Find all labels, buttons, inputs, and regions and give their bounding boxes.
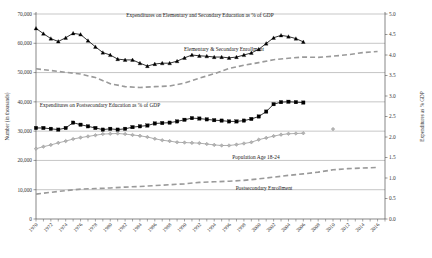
data-point-square (279, 100, 282, 103)
data-point-square (116, 128, 119, 131)
data-point-square (287, 100, 290, 103)
data-point-diamond (242, 142, 246, 146)
data-point-square (183, 118, 186, 121)
data-point-square (257, 115, 260, 118)
data-point-square (250, 117, 253, 120)
series-annotation-4: Postsecondary Enrollment (236, 185, 293, 191)
y-tick-label-right: 2.0 (389, 134, 396, 140)
x-tick-label: 2004 (280, 221, 292, 233)
y-tick-label-right: 4.5 (389, 31, 396, 37)
data-point-diamond (34, 147, 38, 151)
data-point-square (109, 127, 112, 130)
data-point-square (213, 118, 216, 121)
data-point-square (264, 110, 267, 113)
y-tick-label-right: 1.5 (389, 154, 396, 160)
data-point-square (34, 126, 37, 129)
y-tick-label-left: 40,000 (17, 99, 32, 105)
x-tick-label: 1988 (161, 221, 173, 233)
data-point-triangle (138, 61, 142, 65)
data-point-square (79, 123, 82, 126)
x-tick-label: 2006 (295, 221, 307, 233)
data-point-square (205, 118, 208, 121)
x-tick-label: 1972 (42, 221, 54, 233)
x-tick-label: 1974 (57, 221, 69, 233)
data-point-diamond (279, 133, 283, 137)
data-point-diamond (257, 138, 261, 142)
data-point-diamond (198, 141, 202, 145)
data-point-square (153, 122, 156, 125)
x-tick-label: 2014 (354, 221, 366, 233)
y-tick-label-right: 5.0 (389, 11, 396, 17)
data-point-diamond (86, 135, 90, 139)
data-point-square (64, 126, 67, 129)
data-point-diamond (287, 132, 291, 136)
data-point-diamond (183, 141, 187, 145)
data-point-diamond (205, 142, 209, 146)
x-tick-label: 2012 (339, 221, 351, 233)
y-tick-label-right: 2.5 (389, 113, 396, 119)
data-point-diamond (302, 131, 306, 135)
data-point-diamond (331, 127, 335, 131)
data-point-diamond (250, 140, 254, 144)
data-point-diamond (64, 139, 68, 143)
x-tick-label: 1998 (235, 221, 247, 233)
data-point-diamond (79, 136, 83, 140)
data-point-diamond (94, 133, 98, 137)
data-point-diamond (56, 141, 60, 145)
y-tick-label-right: 3.0 (389, 93, 396, 99)
x-tick-label: 1976 (72, 221, 84, 233)
data-point-diamond (116, 132, 120, 136)
y-tick-label-right: 3.5 (389, 72, 396, 78)
data-point-diamond (272, 134, 276, 138)
data-point-square (227, 120, 230, 123)
data-point-diamond (294, 132, 298, 136)
y-tick-label-left: 30,000 (17, 128, 32, 134)
chart-canvas: 010,00020,00030,00040,00050,00060,00070,… (0, 0, 432, 258)
x-tick-label: 1970 (27, 221, 39, 233)
x-tick-label: 2010 (324, 221, 336, 233)
data-point-square (242, 119, 245, 122)
y-tick-label-right: 0.0 (389, 216, 396, 222)
data-point-diamond (168, 139, 172, 143)
y-tick-label-right: 4.0 (389, 52, 396, 58)
data-point-diamond (138, 134, 142, 138)
y-tick-label-left: 0 (29, 216, 32, 222)
data-point-diamond (101, 132, 105, 136)
x-tick-label: 1990 (176, 221, 188, 233)
data-point-triangle (301, 40, 305, 44)
data-point-diamond (146, 135, 150, 139)
data-point-square (131, 125, 134, 128)
series-annotation-1: Elementary & Secondary Enrollment (184, 46, 265, 52)
x-tick-label: 1982 (116, 221, 128, 233)
y-tick-label-left: 20,000 (17, 157, 32, 163)
data-point-diamond (264, 136, 268, 140)
x-tick-label: 1984 (131, 221, 143, 233)
x-tick-label: 1986 (146, 221, 158, 233)
data-point-diamond (235, 143, 239, 147)
x-tick-label: 2002 (265, 221, 277, 233)
y-tick-label-left: 60,000 (17, 40, 32, 46)
data-point-diamond (123, 132, 127, 136)
series-annotation-0: Expenditures on Elementary and Secondary… (126, 12, 273, 18)
data-point-square (220, 119, 223, 122)
series-line-4 (36, 167, 378, 194)
data-point-diamond (160, 138, 164, 142)
data-point-square (175, 120, 178, 123)
y-tick-label-left: 50,000 (17, 69, 32, 75)
y-axis-title-left: Number (in thousands) (4, 92, 11, 140)
x-tick-label: 1996 (220, 221, 232, 233)
x-tick-label: 1980 (102, 221, 114, 233)
series-annotation-3: Population Age 18-24 (232, 154, 280, 160)
x-tick-label: 1978 (87, 221, 99, 233)
y-tick-label-right: 1.0 (389, 175, 396, 181)
data-point-triangle (64, 36, 68, 40)
series-annotation-2: Expenditures on Postsecondary Education … (40, 102, 161, 108)
data-point-diamond (220, 144, 224, 148)
x-tick-label: 2000 (250, 221, 262, 233)
data-point-diamond (49, 143, 53, 147)
data-point-square (49, 127, 52, 130)
data-point-square (57, 128, 60, 131)
y-tick-label-right: 0.5 (389, 195, 396, 201)
data-point-square (168, 121, 171, 124)
x-tick-label: 2008 (309, 221, 321, 233)
